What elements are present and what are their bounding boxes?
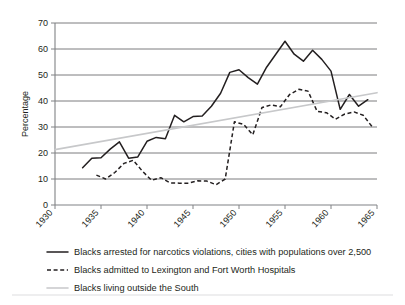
x-tick-label: 1940: [126, 208, 147, 230]
data-series: [55, 41, 377, 185]
x-tick-label: 1950: [218, 208, 239, 230]
x-tick-label: 1945: [172, 208, 193, 230]
legend-label-1: Blacks arrested for narcotics violations…: [74, 247, 371, 257]
y-tick-label: 40: [38, 96, 48, 106]
x-tick-label: 1930: [34, 208, 55, 230]
x-tick-label: 1965: [356, 208, 377, 230]
y-tick-label: 20: [38, 148, 48, 158]
y-tick-label: 70: [38, 18, 48, 28]
y-axis-title: Percentage: [20, 91, 30, 137]
y-tick-label: 60: [38, 44, 48, 54]
chart-legend: Blacks arrested for narcotics violations…: [47, 247, 371, 293]
y-tick-labels: 010203040506070: [38, 18, 55, 210]
series-line-2: [96, 89, 372, 184]
y-tick-label: 50: [38, 70, 48, 80]
chart-figure: 010203040506070 193019351940194519501955…: [0, 0, 405, 305]
y-tick-label: 30: [38, 122, 48, 132]
x-tick-label: 1935: [80, 208, 101, 230]
x-tick-label: 1955: [264, 208, 285, 230]
series-line-1: [83, 41, 368, 168]
y-tick-label: 10: [38, 174, 48, 184]
line-chart: 010203040506070 193019351940194519501955…: [0, 0, 405, 305]
legend-label-3: Blacks living outside the South: [74, 283, 199, 293]
x-tick-label: 1960: [310, 208, 331, 230]
x-tick-labels: 19301935194019451950195519601965: [34, 205, 377, 229]
legend-label-2: Blacks admitted to Lexington and Fort Wo…: [74, 265, 296, 275]
